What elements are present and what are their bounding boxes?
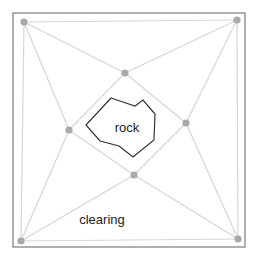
node-tr xyxy=(233,16,240,23)
edge-br-bl xyxy=(21,239,238,241)
edge-right-bottom xyxy=(134,123,186,175)
edge-tl-top xyxy=(24,22,125,73)
edge-tr-br xyxy=(237,20,238,239)
node-right xyxy=(182,119,189,126)
node-bl xyxy=(17,237,24,244)
node-bottom xyxy=(130,171,137,178)
clearing-label: clearing xyxy=(79,212,125,227)
edge-left-bottom xyxy=(69,130,134,175)
node-top xyxy=(121,69,128,76)
edge-tr-top xyxy=(125,20,237,73)
edge-tl-tr xyxy=(24,20,237,22)
rock-label: rock xyxy=(115,120,140,135)
edge-bl-left xyxy=(21,130,69,241)
edge-br-right xyxy=(186,123,238,239)
edge-bl-bottom xyxy=(21,175,134,241)
edge-tr-right xyxy=(186,20,237,123)
edge-br-bottom xyxy=(134,175,238,239)
node-tl xyxy=(20,18,27,25)
edge-tl-left xyxy=(24,22,69,130)
node-left xyxy=(65,126,72,133)
edge-bl-tl xyxy=(21,22,24,241)
node-br xyxy=(234,235,241,242)
